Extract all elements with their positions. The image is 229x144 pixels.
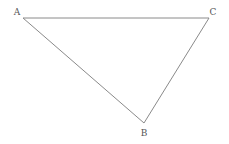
vertex-label-a: A <box>13 7 21 17</box>
triangle-diagram: A C B <box>0 0 229 144</box>
triangle-abc <box>23 18 209 123</box>
vertex-label-b: B <box>141 128 148 138</box>
vertex-label-c: C <box>210 7 217 17</box>
